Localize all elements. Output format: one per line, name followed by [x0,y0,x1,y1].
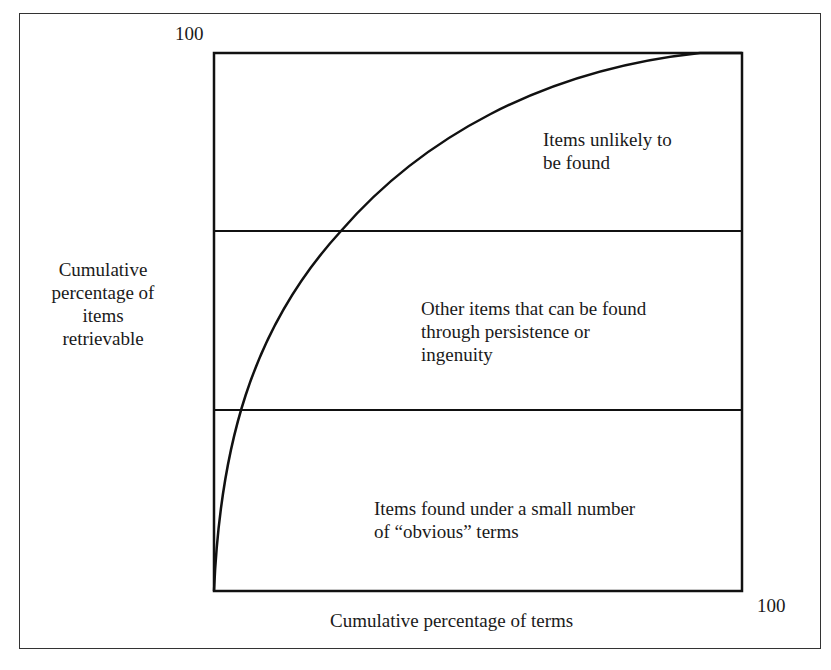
band-label-bottom: Items found under a small number of “obv… [374,497,635,543]
band-label-line: Items found under a small number [374,497,635,520]
x-axis-label: Cumulative percentage of terms [330,609,573,632]
x-axis-max-label: 100 [757,594,786,617]
band-label-middle: Other items that can be found through pe… [421,297,646,366]
band-label-line: Other items that can be found [421,297,646,320]
y-axis-label-line: Cumulative [18,258,188,281]
band-label-line: ingenuity [421,343,646,366]
y-axis-label-line: items [18,304,188,327]
y-axis-max-label: 100 [175,22,204,45]
band-label-line: of “obvious” terms [374,520,635,543]
y-axis-label-line: percentage of [18,281,188,304]
band-label-line: Items unlikely to [543,128,672,151]
y-axis-label: Cumulative percentage of items retrievab… [18,258,188,350]
band-label-line: through persistence or [421,320,646,343]
band-label-line: be found [543,151,672,174]
y-axis-label-line: retrievable [18,327,188,350]
band-label-top: Items unlikely to be found [543,128,672,174]
